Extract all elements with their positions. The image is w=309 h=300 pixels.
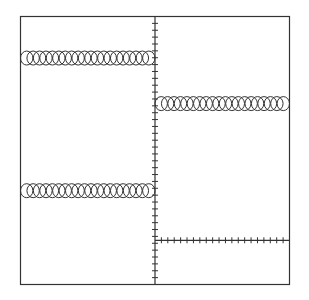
tick-line-bottom-right <box>155 237 290 243</box>
diagram-canvas <box>0 0 309 300</box>
circle-chain-bottom-left <box>21 184 156 198</box>
circle-chain-top-left <box>21 51 156 65</box>
circle-chain-top-right <box>155 97 289 111</box>
